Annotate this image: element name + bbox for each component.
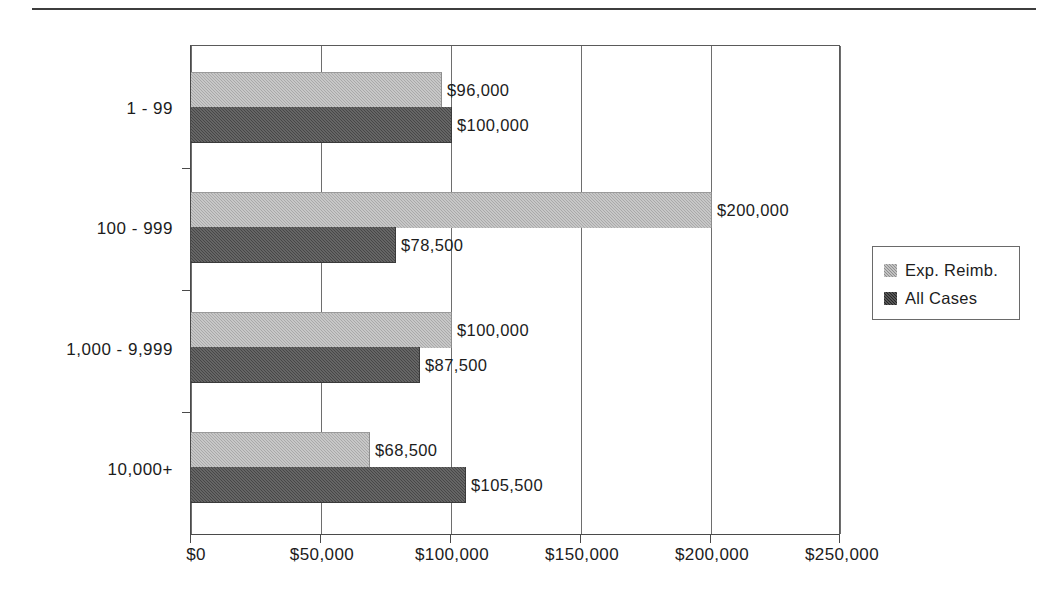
value-label-exp-reimb-1000-9999: $100,000 [457, 322, 529, 339]
x-axis-tick [580, 535, 581, 543]
value-label-exp-reimb-10000plus: $68,500 [375, 442, 437, 459]
x-axis-tick [710, 535, 711, 543]
y-axis-tick [182, 290, 190, 291]
value-label-all-cases-1-99: $100,000 [457, 117, 529, 134]
value-label-all-cases-100-999: $78,500 [401, 237, 463, 254]
x-axis-label-200000: $200,000 [675, 546, 749, 563]
legend-item-exp-reimb: Exp. Reimb. [884, 256, 1019, 284]
x-axis-label-50000: $50,000 [290, 546, 354, 563]
bar-exp-reimb-1-99 [191, 72, 442, 108]
bar-exp-reimb-100-999 [191, 192, 712, 228]
y-axis-tick [182, 168, 190, 169]
x-axis-label-150000: $150,000 [545, 546, 619, 563]
value-label-exp-reimb-1-99: $96,000 [447, 82, 509, 99]
category-label-1-99: 1 - 99 [0, 100, 173, 117]
bar-all-cases-1000-9999 [191, 347, 420, 383]
bar-all-cases-100-999 [191, 227, 396, 263]
x-axis-label-100000: $100,000 [415, 546, 489, 563]
bar-exp-reimb-1000-9999 [191, 312, 452, 348]
gridline [840, 46, 841, 534]
legend-label-all-cases: All Cases [905, 290, 977, 307]
legend-swatch-light-gray-icon [884, 264, 897, 277]
bar-all-cases-10000plus [191, 467, 466, 503]
legend-label-exp-reimb: Exp. Reimb. [905, 262, 998, 279]
category-label-10000plus: 10,000+ [0, 461, 173, 478]
x-axis-label-250000: $250,000 [805, 546, 879, 563]
category-label-100-999: 100 - 999 [0, 220, 173, 237]
x-axis-label-0: $0 [186, 546, 206, 563]
x-axis-tick [320, 535, 321, 543]
y-axis-tick [182, 412, 190, 413]
chart-legend: Exp. Reimb. All Cases [872, 246, 1020, 320]
category-label-1000-9999: 1,000 - 9,999 [0, 341, 173, 358]
gridline [711, 46, 712, 534]
x-axis-tick [190, 535, 191, 543]
bar-exp-reimb-10000plus [191, 432, 370, 468]
x-axis-tick [450, 535, 451, 543]
gridline [581, 46, 582, 534]
legend-item-all-cases: All Cases [884, 284, 1019, 312]
x-axis-tick [839, 535, 840, 543]
value-label-all-cases-10000plus: $105,500 [471, 477, 543, 494]
value-label-exp-reimb-100-999: $200,000 [717, 202, 789, 219]
value-label-all-cases-1000-9999: $87,500 [425, 357, 487, 374]
bar-chart-figure: $96,000 $100,000 $200,000 $78,500 $100,0… [0, 0, 1056, 595]
legend-swatch-dark-gray-icon [884, 292, 897, 305]
bar-all-cases-1-99 [191, 107, 452, 143]
